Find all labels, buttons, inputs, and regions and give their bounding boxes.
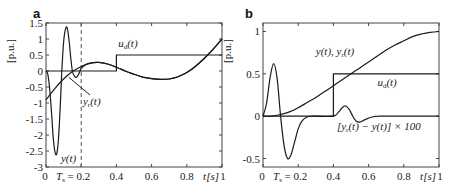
x-tick-label: 0.4 — [110, 170, 124, 182]
y-tick-label: -0.5 — [243, 153, 261, 165]
chart-panel-b: b[p.u.]10.50-0.50Ts = 0.20.40.60.8t[s]1y… — [221, 6, 443, 184]
y-tick-label: 0 — [255, 110, 261, 122]
x-tick-label: 0 — [42, 170, 48, 182]
curve-annotation: y(t) — [60, 152, 77, 165]
x-tick-label: 0.4 — [327, 170, 341, 182]
curve-annotation: yr(t) — [82, 95, 101, 109]
ts-tick-label: Ts = 0.2 — [273, 170, 307, 184]
x-tick-label: 1 — [437, 170, 443, 182]
x-tick-label: 0.6 — [145, 170, 159, 182]
y-tick-label: 1 — [38, 33, 44, 45]
x-tick-label: 0.8 — [180, 170, 194, 182]
curve-annotation: [yr(t) − y(t)] × 100 — [337, 120, 421, 134]
curve-annotation: ud(t) — [377, 76, 397, 90]
y-tick-label: -0.5 — [26, 81, 44, 93]
curve-annotation: ud(t) — [118, 37, 138, 51]
x-tick-label: 1 — [220, 170, 226, 182]
y-axis-label: [p.u.] — [4, 39, 16, 63]
y-tick-label: -2 — [34, 129, 43, 141]
y-axis-label: [p.u.] — [221, 39, 233, 63]
y-tick-label: 0 — [38, 65, 44, 77]
annotation-pointer — [69, 77, 90, 95]
y-tick-label: -2.5 — [26, 145, 44, 157]
chart-panel-a: a[p.u.]1.510.50-0.5-1-1.5-2-2.5-30Ts = 0… — [4, 6, 226, 184]
x-tick-label: 0.6 — [362, 170, 376, 182]
curve-annotation: y(t), yr(t) — [315, 45, 355, 59]
panel-letter: b — [245, 6, 253, 21]
y-tick-label: 0.5 — [246, 68, 260, 80]
figure: a[p.u.]1.510.50-0.5-1-1.5-2-2.5-30Ts = 0… — [0, 0, 453, 193]
x-axis-label: t[s] — [420, 170, 436, 182]
y-tick-label: 1 — [255, 25, 261, 37]
y-tick-label: 0.5 — [29, 49, 43, 61]
y-tick-label: 1.5 — [29, 17, 43, 29]
y-tick-label: -1 — [34, 97, 43, 109]
x-tick-label: 0 — [259, 170, 265, 182]
x-tick-label: 0.8 — [397, 170, 411, 182]
ts-tick-label: Ts = 0.2 — [56, 170, 90, 184]
y-tick-label: -1.5 — [26, 113, 44, 125]
series-line — [263, 74, 439, 116]
x-axis-label: t[s] — [203, 170, 219, 182]
